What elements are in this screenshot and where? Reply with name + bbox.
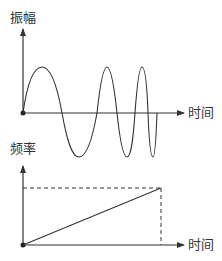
bottom-x-axis-label: 时间 <box>188 238 214 252</box>
top-plot <box>21 29 185 157</box>
chirp-waveform <box>23 67 157 157</box>
top-x-axis-label: 时间 <box>188 106 214 120</box>
top-y-axis-label: 振幅 <box>10 11 36 25</box>
chirp-diagram <box>0 0 222 261</box>
bottom-y-axis-label: 频率 <box>10 142 36 156</box>
frequency-ramp-line <box>23 188 161 245</box>
bottom-plot <box>21 166 185 248</box>
